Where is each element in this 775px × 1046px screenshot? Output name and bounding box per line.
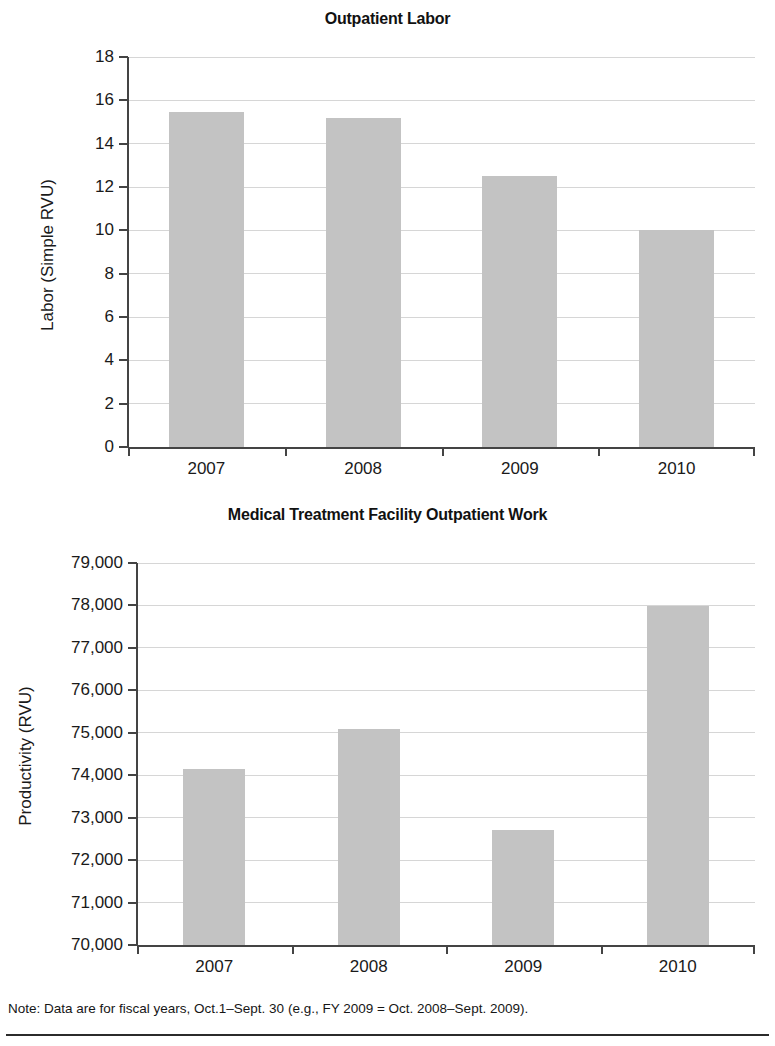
bar — [338, 729, 400, 945]
bar — [169, 112, 244, 447]
y-axis-tick-label: 71,000 — [71, 893, 123, 913]
y-axis-tick — [128, 944, 137, 946]
y-axis-tick-label: 73,000 — [71, 808, 123, 828]
y-axis-tick-label: 2 — [105, 394, 114, 414]
y-axis-tick-label: 77,000 — [71, 638, 123, 658]
y-axis-tick — [119, 229, 128, 231]
y-axis-tick-label: 4 — [105, 350, 114, 370]
figure-mtf-outpatient-work: Medical Treatment Facility Outpatient Wo… — [0, 498, 775, 968]
y-axis-tick-label: 70,000 — [71, 935, 123, 955]
y-axis-tick-label: 0 — [105, 437, 114, 457]
x-axis-tick — [753, 945, 755, 954]
bar — [647, 606, 709, 945]
y-axis-tick-label: 76,000 — [71, 680, 123, 700]
figure-note: Note: Data are for fiscal years, Oct.1–S… — [8, 1001, 528, 1016]
y-axis-tick-label: 8 — [105, 264, 114, 284]
x-axis-tick-label: 2008 — [350, 957, 388, 977]
y-axis-tick — [119, 143, 128, 145]
y-axis-tick-label: 74,000 — [71, 765, 123, 785]
y-axis-tick — [128, 774, 137, 776]
y-axis-tick-label: 72,000 — [71, 850, 123, 870]
y-axis-tick-label: 79,000 — [71, 553, 123, 573]
x-axis-tick-label: 2007 — [195, 957, 233, 977]
y-axis-line-chart2 — [136, 563, 138, 945]
y-axis-tick — [119, 99, 128, 101]
x-axis-tick-label: 2007 — [187, 459, 225, 479]
x-axis-tick — [598, 447, 600, 456]
y-axis-tick-label: 18 — [95, 47, 114, 67]
y-axis-tick — [119, 186, 128, 188]
y-axis-tick-label: 16 — [95, 90, 114, 110]
x-axis-tick-label: 2010 — [659, 957, 697, 977]
y-axis-tick-label: 10 — [95, 220, 114, 240]
x-axis-tick-label: 2009 — [504, 957, 542, 977]
gridline — [128, 57, 755, 58]
x-axis-tick — [446, 945, 448, 954]
bottom-divider — [6, 1034, 769, 1036]
y-axis-tick — [119, 403, 128, 405]
x-axis-tick — [292, 945, 294, 954]
y-axis-tick — [128, 689, 137, 691]
y-axis-tick-label: 14 — [95, 134, 114, 154]
y-axis-tick — [128, 817, 137, 819]
plot-area-outpatient-labor: 0246810121416182007200820092010 — [128, 57, 755, 447]
y-axis-tick-label: 75,000 — [71, 723, 123, 743]
x-axis-tick — [753, 447, 755, 456]
y-axis-tick — [119, 316, 128, 318]
y-axis-tick — [119, 273, 128, 275]
bar — [482, 176, 557, 447]
y-axis-tick — [128, 604, 137, 606]
figure-outpatient-labor: Outpatient Labor Labor (Simple RVU) 0246… — [0, 0, 775, 480]
y-axis-label-productivity: Productivity (RVU) — [16, 656, 36, 856]
gridline — [137, 563, 755, 564]
bar — [492, 830, 554, 945]
bar — [326, 118, 401, 447]
y-axis-tick — [128, 647, 137, 649]
x-axis-tick — [285, 447, 287, 456]
chart-title-mtf-outpatient-work: Medical Treatment Facility Outpatient Wo… — [0, 506, 775, 524]
x-axis-tick — [601, 945, 603, 954]
bar — [639, 230, 714, 447]
bar — [183, 769, 245, 945]
y-axis-line-chart1 — [127, 57, 129, 447]
y-axis-tick-label: 12 — [95, 177, 114, 197]
chart-title-outpatient-labor: Outpatient Labor — [0, 10, 775, 28]
y-axis-tick-label: 6 — [105, 307, 114, 327]
y-axis-tick — [128, 562, 137, 564]
y-axis-tick — [128, 859, 137, 861]
gridline — [128, 100, 755, 101]
plot-area-mtf-outpatient-work: 70,00071,00072,00073,00074,00075,00076,0… — [137, 563, 755, 945]
x-axis-tick — [128, 447, 130, 456]
x-axis-tick-label: 2010 — [658, 459, 696, 479]
y-axis-tick — [128, 902, 137, 904]
x-axis-tick-label: 2008 — [344, 459, 382, 479]
x-axis-tick — [137, 945, 139, 954]
y-axis-tick — [119, 359, 128, 361]
x-axis-tick — [442, 447, 444, 456]
x-axis-tick-label: 2009 — [501, 459, 539, 479]
y-axis-tick — [119, 56, 128, 58]
y-axis-label-labor: Labor (Simple RVU) — [38, 155, 58, 355]
y-axis-tick-label: 78,000 — [71, 595, 123, 615]
y-axis-tick — [119, 446, 128, 448]
y-axis-tick — [128, 732, 137, 734]
